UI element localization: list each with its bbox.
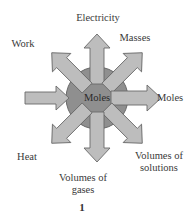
label-heat: Heat (12, 151, 42, 162)
center-label-moles: Moles (72, 92, 122, 103)
label-electricity: Electricity (60, 12, 136, 23)
label-volumes-of-solutions-line1: Volumes of (128, 150, 190, 161)
figure-number: 1 (72, 202, 92, 213)
label-masses: Masses (110, 32, 160, 43)
arrow-inward-west (25, 86, 69, 110)
label-volumes-of-solutions-line2: solutions (128, 162, 190, 173)
label-work: Work (8, 38, 38, 49)
label-volumes-of-gases-line1: Volumes of (52, 172, 114, 183)
label-volumes-of-gases-line2: gases (52, 184, 114, 195)
label-moles-out: Moles (150, 92, 190, 103)
